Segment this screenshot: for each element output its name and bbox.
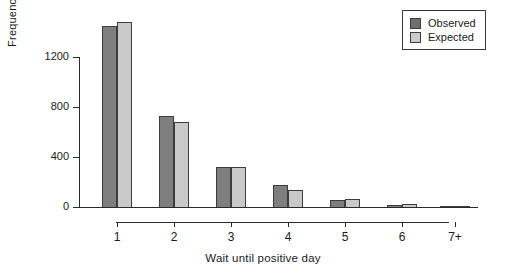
legend-swatch-icon (410, 32, 421, 43)
x-axis-baseline (79, 207, 478, 208)
bar-observed-4 (273, 185, 288, 208)
y-tick-label: 0 (63, 201, 69, 212)
x-tick (231, 222, 232, 227)
x-tick-label: 7+ (435, 230, 475, 244)
bar-chart: Frequency 04008001200 1234567+ Wait unti… (0, 0, 526, 276)
bar-group (273, 185, 303, 208)
y-tick-label: 800 (51, 101, 69, 112)
y-axis-title: Frequency (6, 0, 18, 80)
x-tick (455, 222, 456, 227)
x-tick-label: 5 (325, 230, 365, 244)
bar-group (159, 116, 189, 209)
x-tick-label: 6 (382, 230, 422, 244)
bar-expected-1 (117, 22, 132, 208)
legend-item-observed: Observed (410, 16, 476, 30)
x-tick (288, 222, 289, 227)
y-tick-label: 1200 (45, 51, 69, 62)
y-tick (73, 157, 79, 158)
x-tick-label: 3 (211, 230, 251, 244)
x-tick (174, 222, 175, 227)
bar-observed-1 (102, 26, 117, 208)
x-tick-label: 1 (97, 230, 137, 244)
x-axis-title: Wait until positive day (0, 252, 526, 264)
x-tick (345, 222, 346, 227)
bar-observed-3 (216, 167, 231, 208)
y-tick (73, 107, 79, 108)
bar-expected-3 (231, 167, 246, 208)
x-tick-label: 2 (154, 230, 194, 244)
bar-expected-2 (174, 122, 189, 208)
y-tick-label: 400 (51, 151, 69, 162)
legend: Observed Expected (402, 10, 486, 50)
x-tick (402, 222, 403, 227)
bar-expected-4 (288, 190, 303, 208)
x-axis-line (116, 222, 449, 223)
bar-group (216, 167, 246, 208)
bar-observed-2 (159, 116, 174, 209)
legend-label: Observed (428, 17, 476, 29)
x-tick (117, 222, 118, 227)
legend-label: Expected (428, 31, 474, 43)
legend-swatch-icon (410, 18, 421, 29)
y-tick (73, 57, 79, 58)
bar-group (102, 22, 132, 208)
x-tick-label: 4 (268, 230, 308, 244)
legend-item-expected: Expected (410, 30, 476, 44)
